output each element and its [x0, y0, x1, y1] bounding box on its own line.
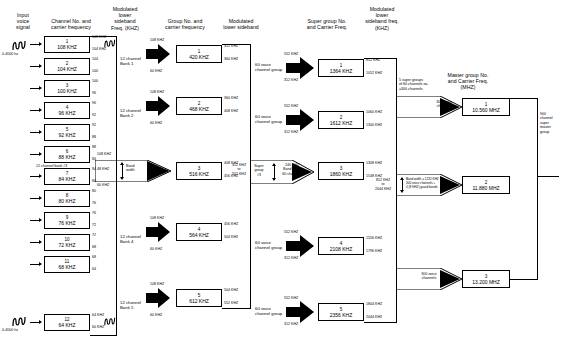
channel-box-12[interactable]: 12 64 KHZ — [44, 314, 90, 331]
mastergroup-box-1[interactable]: 1 10.560 MHZ — [462, 98, 510, 116]
channel-frequency: 108 KHZ — [57, 44, 77, 50]
supergroup-box-5[interactable]: 5 2356 KHZ — [318, 303, 364, 321]
channel-frequency: 64 KHZ — [59, 322, 76, 328]
bank3-bandwidth-caption: Band width — [126, 164, 142, 173]
channel-band-bottom: 92 — [92, 113, 96, 117]
mastergroup-range-2: 812 KHZ to 2044 KHZ — [372, 178, 394, 191]
bank-band-top: 108 KHZ — [150, 216, 164, 220]
supergroup3-bandwidth-arrow — [272, 163, 276, 181]
group-box-4[interactable]: 4 564 KHZ — [176, 223, 222, 241]
supergroup-box-3[interactable]: 3 1860 KHZ — [318, 162, 364, 180]
channel-input-arrow — [30, 130, 42, 135]
channel-box-8[interactable]: 8 80 KHZ — [44, 190, 90, 207]
channel-bus-rail — [116, 36, 117, 336]
channel-frequency: 76 KHZ — [59, 220, 76, 226]
channel-box-7[interactable]: 7 84 KHZ — [44, 168, 90, 185]
channel-box-6[interactable]: 6 88 KHZ — [44, 146, 90, 163]
supergroup-modulator-arrow-2 — [286, 109, 314, 131]
group-bus-top — [222, 44, 251, 45]
bank-band-bottom: 60 KHZ — [150, 313, 162, 317]
channel-input-arrow — [30, 174, 42, 179]
output-label: 900 channel super master group — [540, 112, 566, 134]
bank-band-top: 108 KHZ — [150, 90, 164, 94]
header-supergroup-carrier: Super group No. and Carrier Freq. — [296, 18, 358, 30]
bandwidth-double-arrow — [120, 162, 124, 180]
channel-input-arrow — [30, 86, 42, 91]
channel-band-bottom: 68 — [92, 245, 96, 249]
channel-input-arrow — [30, 152, 42, 157]
bank-band-bottom: 60 KHZ — [150, 69, 162, 73]
supergroup-band-top: 1556 KHZ — [366, 236, 382, 240]
channel-box-9[interactable]: 9 76 KHZ — [44, 212, 90, 229]
supergroup-feed-top: 552 KHZ — [284, 104, 298, 108]
channel-box-11[interactable]: 11 68 KHZ — [44, 256, 90, 273]
channel-frequency: 88 KHZ — [59, 154, 76, 160]
supergroup-band-bottom: 1300 KHZ — [366, 123, 382, 127]
supergroup3-name: Super group #3 — [251, 164, 267, 177]
bank3-band-top: 108 KHZ — [97, 152, 111, 156]
group-band-bottom: 360 KHZ — [224, 57, 238, 61]
channel-input-arrow — [30, 320, 42, 325]
header-modulated-lsb-freq: Modulated lower sideband Freq. (KHZ) — [103, 6, 147, 31]
bank-bus-bottom — [90, 335, 117, 336]
channel-band-top: 68 — [92, 255, 96, 259]
group-box-3[interactable]: 3 516 KHZ — [176, 162, 222, 180]
mastergroup-box-2[interactable]: 2 11.880 MHZ — [462, 176, 510, 194]
supergroup-bus-top — [364, 58, 397, 59]
supergroup-feed-label-1: 60 voice channel group — [255, 62, 285, 72]
mastergroup-bandwidth-arrow — [400, 177, 404, 193]
group-box-1[interactable]: 1 420 KHZ — [176, 45, 222, 63]
supergroup-frequency: 1860 KHZ — [330, 171, 353, 177]
channel-band-top: 104 — [92, 57, 98, 61]
channel-frequency: 96 KHZ — [59, 110, 76, 116]
channel-frequency: 104 KHZ — [57, 66, 77, 72]
mastergroup-box-3[interactable]: 3 13.200 MHZ — [462, 270, 510, 288]
channel-box-5[interactable]: 5 92 KHZ — [44, 124, 90, 141]
channel-band-bottom: 72 — [92, 223, 96, 227]
supergroup3-bandwidth-caption: 240 KHZ Band width 60 channels — [278, 163, 306, 176]
bank-modulator-arrow-1 — [146, 44, 170, 64]
supergroup-feed-label-2: 60 voice channel group — [255, 114, 285, 124]
bank-band-top: 108 KHZ — [150, 282, 164, 286]
group-box-2[interactable]: 2 468 KHZ — [176, 97, 222, 115]
channel-frequency: 72 KHZ — [59, 242, 76, 248]
group-frequency: 516 KHZ — [189, 171, 209, 177]
supergroup-box-1[interactable]: 1 1364 KHZ — [318, 59, 364, 77]
channel-box-1[interactable]: 1 108 KHZ — [44, 36, 90, 53]
channel-box-2[interactable]: 2 104 KHZ — [44, 58, 90, 75]
channel-band-top: 92 — [92, 123, 96, 127]
group-band-top: 504 KHZ — [224, 288, 238, 292]
channel-frequency: 100 KHZ — [57, 88, 77, 94]
input-sine-top-icon — [12, 40, 28, 51]
output-bus-middle — [537, 176, 559, 177]
channel-band-top: 64 KHZ — [92, 313, 104, 317]
supergroup-band-top: 1060 KHZ — [366, 110, 382, 114]
supergroup-box-4[interactable]: 4 2108 KHZ — [318, 237, 364, 255]
header-channel-carrier: Channel No. and carrier frequency — [38, 18, 104, 30]
channel-band-bottom: 64 — [92, 267, 96, 271]
supergroup-band-top: 1308 KHZ — [366, 161, 382, 165]
bank-modulator-arrow-2 — [146, 96, 170, 116]
channel-input-arrow — [30, 262, 42, 267]
channel-frequency: 80 KHZ — [59, 198, 76, 204]
bank-label-1: 12 channel Bank 1 — [120, 56, 146, 66]
channel-box-3[interactable]: 3 100 KHZ — [44, 80, 90, 97]
channel-frequency: 68 KHZ — [59, 264, 76, 270]
output-bus-bottom — [510, 279, 538, 280]
supergroup-frequency: 1612 KHZ — [330, 120, 353, 126]
channel-box-10[interactable]: 10 72 KHZ — [44, 234, 90, 251]
bank-band-top: 108 KHZ — [150, 38, 164, 42]
supergroup-feed-top: 552 KHZ — [284, 230, 298, 234]
group-band-top: 360 KHZ — [224, 96, 238, 100]
group-band-bottom: 552 KHZ — [224, 301, 238, 305]
channel-box-4[interactable]: 4 96 KHZ — [44, 102, 90, 119]
channel-frequency: 92 KHZ — [59, 132, 76, 138]
supergroup-box-2[interactable]: 2 1612 KHZ — [318, 111, 364, 129]
group-box-5[interactable]: 5 612 KHZ — [176, 289, 222, 307]
channel-band-bottom: 60 KHZ — [92, 325, 104, 329]
supergroup3-range: 312 KHZ to 552 KHZ — [229, 163, 249, 176]
mastergroup-frequency: 10.560 MHZ — [472, 107, 500, 113]
bank-label-5: 12 channel Bank 5 — [120, 300, 146, 310]
header-modulated-lsb-sg: Modulated lower sideband freq. (KHZ) — [356, 6, 408, 31]
mastergroup-bandwidth-caption: Band width = 1232 KHZ 300 voice channels… — [406, 177, 446, 189]
